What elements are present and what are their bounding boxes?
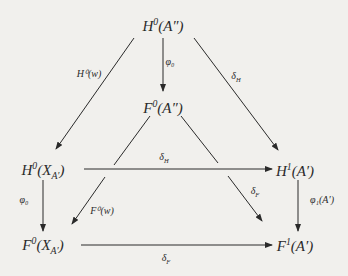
label-f0w: F⁰(w) (90, 205, 113, 216)
arrow-f0w-lower (72, 177, 105, 224)
label-phi1: φ₁(A′) (310, 194, 334, 205)
node-h0-x: H0(XA′) (22, 160, 65, 181)
label-h0w: H⁰(w) (77, 68, 102, 79)
node-f0-a2: F0(A″) (143, 98, 182, 117)
arrow-df-upper (181, 116, 218, 163)
arrow-dh-right (194, 38, 278, 150)
label-phi0-top: φ₀ (165, 56, 174, 67)
arrow-df-lower (228, 176, 262, 221)
label-phi0-left: φ₀ (19, 194, 28, 205)
node-f1-a1: F1(A′) (277, 236, 313, 255)
label-df-diag: δF (251, 185, 260, 198)
arrow-f0w-upper (114, 116, 150, 165)
label-dh-right: δH (231, 70, 240, 83)
label-df-bottom: δF (162, 252, 171, 265)
arrow-h0w (56, 38, 134, 149)
node-f0-x: F0(XA′) (22, 235, 63, 256)
node-h0-a2: H0(A″) (142, 16, 183, 35)
label-dh-horiz: δH (159, 151, 168, 164)
node-h1-a1: H1(A′) (276, 161, 314, 180)
